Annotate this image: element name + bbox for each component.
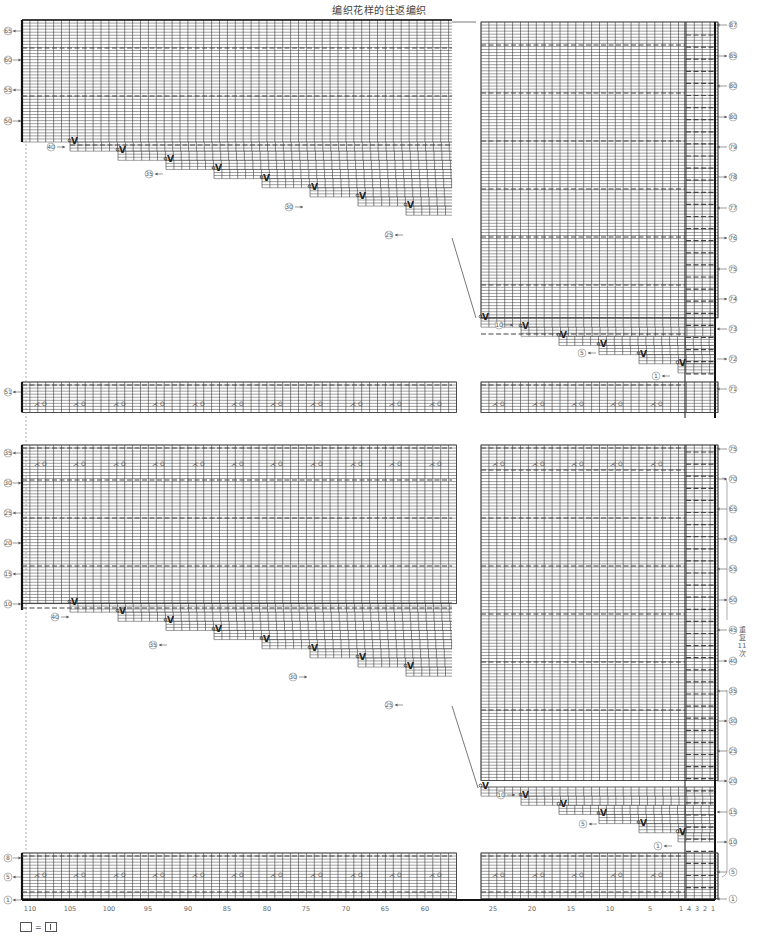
row-number-text: 85	[729, 52, 737, 59]
lower-right-grid	[481, 445, 718, 781]
row-number-text: 51	[4, 388, 12, 395]
arrowhead-icon	[725, 599, 728, 602]
slip-stitch-icon: V	[522, 321, 529, 331]
row-number-text: 73	[729, 325, 737, 332]
stitch-count-tick: 85	[223, 905, 231, 913]
row-number-text: 25	[4, 509, 12, 516]
arrowhead-icon	[725, 358, 728, 361]
stitch-count-tick: 100	[103, 905, 115, 913]
decrease-yo-symbol: ⋌ O	[192, 871, 205, 878]
row-number-text: 20	[4, 539, 12, 546]
slip-stitch-icon: V	[560, 330, 567, 340]
upper-right-grid	[481, 22, 718, 318]
row-number-text: 25	[729, 747, 737, 754]
stitch-count-tick: 2	[703, 905, 707, 913]
slip-stitch-icon: V	[359, 191, 366, 201]
decrease-yo-symbol: ⋌ O	[492, 871, 505, 878]
row-number-text: 1	[731, 895, 735, 902]
decrease-yo-symbol: ⋌ O	[34, 400, 47, 407]
slip-stitch-icon: V	[482, 781, 489, 791]
decrease-yo-symbol: ⋌ O	[650, 400, 663, 407]
decrease-yo-symbol: ⋌ O	[492, 460, 505, 467]
row-number-text: 74	[729, 295, 737, 302]
slip-stitch-icon: V	[482, 312, 489, 322]
stitch-count-tick: 4	[687, 905, 691, 913]
decrease-yo-symbol: ⋌ O	[231, 460, 244, 467]
decrease-yo-symbol: ⋌ O	[113, 400, 126, 407]
lower-right-stairs: VVVVVV	[479, 781, 715, 842]
arrowhead-icon	[13, 876, 16, 879]
row-number-text: 10	[4, 600, 12, 607]
arrowhead-icon	[19, 59, 22, 62]
slip-stitch-icon: V	[311, 643, 318, 653]
row-number-text: 1	[656, 842, 660, 849]
row-number-text: 30	[289, 673, 297, 680]
arrowhead-icon	[19, 120, 22, 123]
decrease-yo-symbol: ⋌ O	[389, 871, 402, 878]
row-number-text: 72	[729, 355, 737, 362]
arrowhead-icon	[725, 116, 728, 119]
arrowhead-icon	[717, 328, 720, 331]
row-number-text: 10	[729, 838, 737, 845]
decrease-yo-symbol: ⋌ O	[492, 400, 505, 407]
upper-left-grid: VVVVVVVV	[22, 20, 452, 215]
arrowhead-icon	[717, 811, 720, 814]
decrease-yo-symbol: ⋌ O	[532, 460, 545, 467]
row-number-text: 10	[497, 791, 505, 798]
arrowhead-icon	[664, 845, 667, 848]
arrowhead-icon	[13, 30, 16, 33]
arrowhead-icon	[13, 573, 16, 576]
upper-band-left	[22, 382, 457, 413]
row-number-text: 25	[385, 231, 393, 238]
arrowhead-icon	[301, 206, 304, 209]
repeat-note: 重复11次	[736, 626, 748, 658]
lower-left-stairs: VVVVVVVV	[22, 597, 452, 676]
slip-stitch-icon: V	[215, 624, 222, 634]
decrease-yo-symbol: ⋌ O	[152, 460, 165, 467]
decrease-yo-symbol: ⋌ O	[429, 460, 442, 467]
arrowhead-icon	[13, 899, 16, 902]
slip-stitch-icon: V	[640, 818, 647, 828]
arrowhead-icon	[13, 512, 16, 515]
decrease-yo-symbol: ⋌ O	[73, 400, 86, 407]
row-number-text: 78	[729, 173, 737, 180]
arrowhead-icon	[725, 237, 728, 240]
row-number-text: 75	[729, 445, 737, 452]
knit-stitch-icon	[45, 922, 57, 932]
decrease-yo-symbol: ⋌ O	[113, 460, 126, 467]
slip-stitch-icon: V	[679, 827, 686, 837]
row-number-text: 40	[51, 613, 59, 620]
row-number-text: 15	[729, 808, 737, 815]
arrowhead-icon	[63, 146, 66, 149]
row-number-text: 80	[729, 82, 737, 89]
row-number-text: 55	[4, 86, 12, 93]
stitch-count-tick: 75	[302, 905, 310, 913]
slip-stitch-icon: V	[263, 173, 270, 183]
decrease-yo-symbol: ⋌ O	[389, 400, 402, 407]
arrowhead-icon	[19, 542, 22, 545]
decrease-yo-symbol: ⋌ O	[73, 460, 86, 467]
arrowhead-icon	[19, 857, 22, 860]
legend: =	[20, 922, 57, 932]
arrowhead-icon	[13, 89, 16, 92]
row-number-text: 87	[729, 21, 737, 28]
arrowhead-icon	[589, 823, 592, 826]
arrowhead-icon	[155, 173, 158, 176]
lower-left-grid	[22, 445, 457, 604]
row-number-text: 55	[729, 565, 737, 572]
decrease-yo-symbol: ⋌ O	[650, 871, 663, 878]
stitch-count-tick: 105	[64, 905, 76, 913]
row-number-text: 30	[285, 203, 293, 210]
arrowhead-icon	[19, 482, 22, 485]
slip-stitch-icon: V	[215, 163, 222, 173]
decrease-yo-symbol: ⋌ O	[532, 400, 545, 407]
arrowhead-icon	[13, 452, 16, 455]
slip-stitch-icon: V	[600, 339, 607, 349]
decrease-yo-symbol: ⋌ O	[571, 400, 584, 407]
slip-stitch-icon: V	[311, 182, 318, 192]
decrease-yo-symbol: ⋌ O	[310, 871, 323, 878]
decrease-yo-symbol: ⋌ O	[73, 871, 86, 878]
stitch-count-tick: 90	[184, 905, 192, 913]
decrease-yo-symbol: ⋌ O	[650, 460, 663, 467]
slip-stitch-icon: V	[560, 799, 567, 809]
